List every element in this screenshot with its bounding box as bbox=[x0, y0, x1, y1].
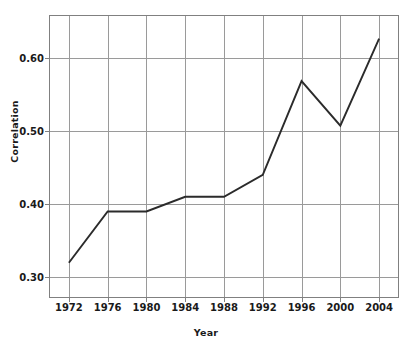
x-tick-label-1972: 1972 bbox=[47, 302, 91, 313]
x-tick-label-2004: 2004 bbox=[357, 302, 401, 313]
correlation-data-line bbox=[69, 39, 379, 263]
x-tick-label-1992: 1992 bbox=[241, 302, 285, 313]
x-tick-label-1988: 1988 bbox=[202, 302, 246, 313]
x-tick-label-1980: 1980 bbox=[124, 302, 168, 313]
plot-area bbox=[0, 0, 412, 346]
x-axis-ticks bbox=[70, 298, 380, 302]
x-tick-label-1984: 1984 bbox=[163, 302, 207, 313]
x-tick-label-1996: 1996 bbox=[280, 302, 324, 313]
vertical-gridlines bbox=[70, 16, 380, 298]
x-tick-label-2000: 2000 bbox=[318, 302, 362, 313]
line-chart-figure: Correlation 0.300.400.500.60 Year 197219… bbox=[0, 0, 412, 346]
x-tick-label-1976: 1976 bbox=[86, 302, 130, 313]
y-axis-ticks bbox=[45, 59, 50, 278]
